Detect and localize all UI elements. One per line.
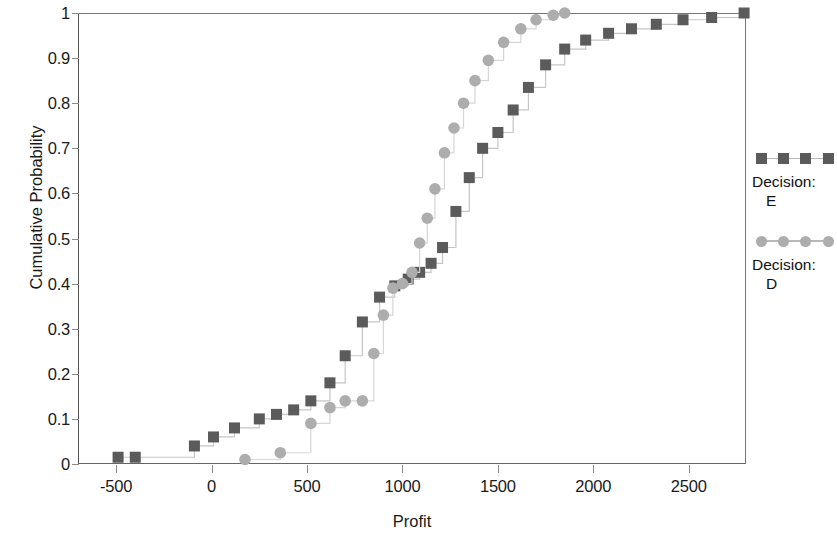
legend-label-decision-d: Decision: D xyxy=(752,255,837,294)
x-tick-mark xyxy=(402,465,403,473)
legend-swatch-decision-d xyxy=(752,233,837,249)
square-marker-icon xyxy=(778,153,789,164)
circle-marker-icon xyxy=(800,236,811,247)
legend-label-line1: Decision: xyxy=(752,256,816,273)
x-tick-mark xyxy=(498,465,499,473)
square-marker-icon xyxy=(823,153,834,164)
circle-marker-icon xyxy=(756,236,767,247)
legend-entry-decision-d[interactable]: Decision: D xyxy=(752,233,837,294)
x-tick-label: -500 xyxy=(100,478,132,495)
x-tick-label: 2500 xyxy=(671,478,707,495)
legend-label-line1: Decision: xyxy=(752,173,816,190)
x-axis-title: Profit xyxy=(78,512,746,531)
x-tick-label: 1000 xyxy=(385,478,421,495)
circle-marker-icon xyxy=(823,236,834,247)
y-tick-label: 1 xyxy=(6,5,70,22)
y-tick-label: 0.1 xyxy=(6,411,70,428)
x-tick-label: 0 xyxy=(207,478,216,495)
y-tick-mark xyxy=(72,239,79,240)
x-tick-mark xyxy=(689,465,690,473)
x-tick-label: 2000 xyxy=(575,478,611,495)
legend-entry-decision-e[interactable]: Decision: E xyxy=(752,150,837,211)
square-marker-icon xyxy=(756,153,767,164)
square-marker-icon xyxy=(800,153,811,164)
y-tick-mark xyxy=(72,58,79,59)
chart-legend: Decision: E Decision: D xyxy=(752,150,837,316)
x-tick-label: 500 xyxy=(294,478,321,495)
y-tick-mark xyxy=(72,193,79,194)
x-tick-mark xyxy=(116,465,117,473)
x-tick-label: 1500 xyxy=(480,478,516,495)
circle-marker-icon xyxy=(778,236,789,247)
y-tick-mark xyxy=(72,13,79,14)
cumulative-probability-chart: 00.10.20.30.40.50.60.70.80.91 -500050010… xyxy=(0,0,837,536)
legend-label-decision-e: Decision: E xyxy=(752,172,837,211)
legend-swatch-decision-e xyxy=(752,150,837,166)
x-tick-mark xyxy=(212,465,213,473)
y-tick-mark xyxy=(72,374,79,375)
y-tick-label: 0.9 xyxy=(6,50,70,67)
x-tick-mark xyxy=(307,465,308,473)
legend-label-line2: D xyxy=(752,274,837,293)
y-tick-mark xyxy=(72,329,79,330)
y-tick-mark xyxy=(72,103,79,104)
x-tick-mark xyxy=(593,465,594,473)
y-tick-mark xyxy=(72,148,79,149)
y-tick-label: 0 xyxy=(6,456,70,473)
y-tick-mark xyxy=(72,284,79,285)
legend-label-line2: E xyxy=(752,191,837,210)
y-tick-label: 0.2 xyxy=(6,366,70,383)
y-tick-mark xyxy=(72,419,79,420)
y-axis-title: Cumulative Probability xyxy=(27,78,46,338)
y-tick-mark xyxy=(72,464,79,465)
plot-area xyxy=(78,13,746,464)
